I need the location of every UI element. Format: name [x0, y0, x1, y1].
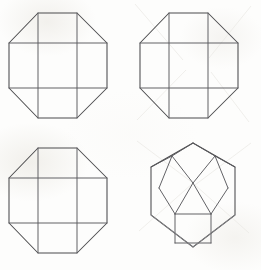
figure-bottom-right-canvas: [131, 135, 261, 270]
drawing-sheet: [0, 0, 261, 270]
facet-edge-centre-down-right: [193, 183, 211, 214]
octagon-outline: [9, 148, 107, 253]
facet-edge-centre-right: [193, 156, 215, 183]
facet-edge-lower-right: [211, 188, 228, 214]
octagon-outline: [9, 13, 107, 118]
apex-edge-bottom-right: [193, 215, 235, 247]
figure-top-left: [0, 0, 131, 135]
ghost-construction-lines: [137, 141, 251, 233]
facet-edge-apex-left: [172, 143, 193, 156]
figure-top-left-canvas: [0, 0, 131, 135]
facet-edge-right-descend: [215, 156, 228, 188]
figure-bottom-left-canvas: [0, 135, 131, 270]
ghost-construction-lines: [135, 4, 251, 122]
facet-edge-apex-right: [193, 143, 215, 156]
figure-bottom-right: [131, 135, 261, 270]
figure-top-right-canvas: [131, 0, 261, 135]
figure-bottom-left: [0, 135, 131, 270]
facet-edge-centre-down-left: [175, 183, 193, 214]
figure-top-right: [131, 0, 261, 135]
apex-edge-bottom-left: [151, 215, 193, 247]
facet-edge-upper-left: [151, 156, 172, 167]
